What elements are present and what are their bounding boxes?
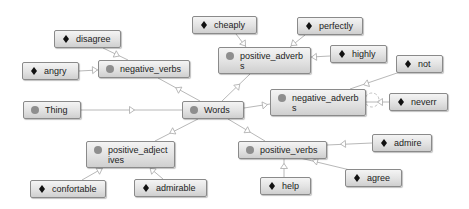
individual-diamond-icon xyxy=(354,174,360,182)
self-loop-edge xyxy=(365,93,379,107)
individual-diamond-icon xyxy=(398,98,404,106)
individual-diamond-icon xyxy=(269,182,275,190)
edge-highly-to-positive_adverbs xyxy=(311,53,330,60)
edge-cheaply-to-positive_adverbs xyxy=(236,34,246,47)
individual-diamond-icon xyxy=(31,67,37,75)
edge-admire-to-positive_verbs xyxy=(327,140,372,147)
node-label: positive_adverb s xyxy=(240,51,303,71)
node-words[interactable]: Words xyxy=(182,101,244,119)
node-cheaply[interactable]: cheaply xyxy=(192,16,257,34)
individual-diamond-icon xyxy=(381,139,387,147)
edge-words-to-negative_adverbs xyxy=(244,102,270,109)
arrowhead-icon xyxy=(341,140,346,147)
arrowhead-icon xyxy=(312,53,317,60)
edge-not-to-negative_adverbs xyxy=(350,72,400,89)
node-label: not xyxy=(418,59,431,69)
node-label: disagree xyxy=(76,34,111,44)
node-help[interactable]: help xyxy=(260,177,311,195)
node-label: positive_adject ives xyxy=(108,145,168,165)
node-label: negative_adverb s xyxy=(292,93,359,113)
edge-thing-to-words xyxy=(81,107,182,114)
node-highly[interactable]: highly xyxy=(330,45,387,63)
node-label: angry xyxy=(44,66,67,76)
node-positive-adjectives[interactable]: positive_adject ives xyxy=(86,141,175,168)
node-agree[interactable]: agree xyxy=(345,169,402,187)
node-perfectly[interactable]: perfectly xyxy=(297,17,363,35)
node-label: negative_verbs xyxy=(120,64,181,74)
class-circle-icon xyxy=(190,106,198,114)
node-label: positive_verbs xyxy=(260,145,318,155)
edge-words-to-positive_adjectives xyxy=(155,119,198,141)
arrowhead-icon xyxy=(240,40,246,46)
node-positive-verbs[interactable]: positive_verbs xyxy=(238,141,327,159)
individual-diamond-icon xyxy=(201,21,207,29)
arrowhead-icon xyxy=(313,158,319,165)
arrowhead-icon xyxy=(92,67,97,74)
edge-help-to-positive_verbs xyxy=(281,158,288,177)
class-circle-icon xyxy=(94,146,102,154)
individual-diamond-icon xyxy=(63,35,69,43)
node-label: cheaply xyxy=(214,20,245,30)
class-circle-icon xyxy=(278,94,286,102)
individual-diamond-icon xyxy=(143,184,149,192)
ontology-graph-canvas[interactable]: Thing Words negative_verbs positive_adve… xyxy=(0,0,469,209)
arrowhead-icon xyxy=(244,127,250,133)
edge-disagree-to-negative_verbs xyxy=(103,48,128,60)
node-negative-verbs[interactable]: negative_verbs xyxy=(98,60,190,78)
node-label: admire xyxy=(394,138,422,148)
node-label: admirable xyxy=(156,183,196,193)
node-positive-adverbs[interactable]: positive_adverb s xyxy=(218,47,311,74)
node-negative-adverbs[interactable]: negative_adverb s xyxy=(270,89,366,116)
class-circle-icon xyxy=(31,106,39,114)
individual-diamond-icon xyxy=(306,22,312,30)
edge-angry-to-negative_verbs xyxy=(79,67,98,74)
node-thing[interactable]: Thing xyxy=(23,101,81,119)
node-not[interactable]: not xyxy=(396,55,443,73)
arrowhead-icon xyxy=(281,164,288,169)
arrowhead-icon xyxy=(262,102,267,109)
edge-perfectly-to-positive_adverbs xyxy=(290,35,305,47)
node-label: perfectly xyxy=(319,21,353,31)
arrowhead-icon xyxy=(150,168,156,174)
node-label: neverr xyxy=(411,97,437,107)
individual-diamond-icon xyxy=(405,60,411,68)
edge-admirable-to-positive_adjectives xyxy=(150,168,163,179)
node-label: highly xyxy=(352,49,376,59)
edge-words-to-negative_verbs xyxy=(158,78,200,101)
node-admire[interactable]: admire xyxy=(372,134,432,152)
arrowhead-icon xyxy=(130,107,135,114)
individual-diamond-icon xyxy=(339,50,345,58)
arrowhead-icon xyxy=(113,51,119,57)
node-label: Thing xyxy=(45,105,68,115)
arrowhead-icon xyxy=(364,80,370,87)
node-label: Words xyxy=(204,105,230,115)
node-neverr[interactable]: neverr xyxy=(389,93,448,111)
edge-words-to-positive_adverbs xyxy=(222,74,250,101)
edge-neverr-to-negative_adverbs xyxy=(366,99,389,106)
edge-confortable-to-positive_adjectives xyxy=(82,168,103,180)
node-angry[interactable]: angry xyxy=(22,62,79,80)
class-circle-icon xyxy=(226,52,234,60)
node-label: agree xyxy=(367,173,390,183)
edge-words-to-positive_verbs xyxy=(228,119,265,141)
node-label: confortable xyxy=(52,184,97,194)
node-confortable[interactable]: confortable xyxy=(30,180,106,198)
class-circle-icon xyxy=(246,146,254,154)
class-circle-icon xyxy=(106,65,114,73)
node-admirable[interactable]: admirable xyxy=(134,179,207,197)
node-label: help xyxy=(282,181,299,191)
individual-diamond-icon xyxy=(39,185,45,193)
node-disagree[interactable]: disagree xyxy=(54,30,121,48)
edge-agree-to-positive_verbs xyxy=(300,158,350,170)
